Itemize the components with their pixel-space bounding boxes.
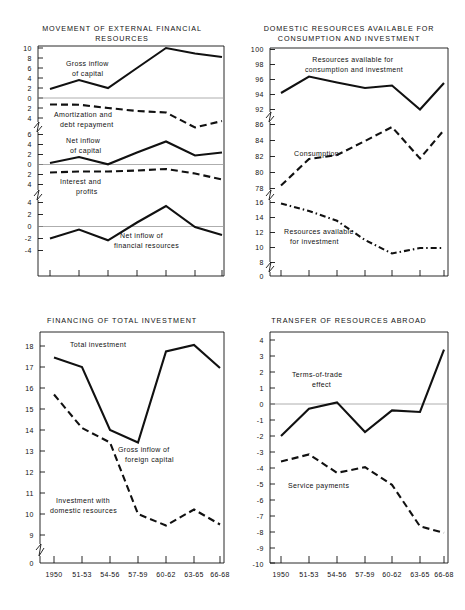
p4-tick-3: 1 <box>260 385 264 392</box>
p3-tick-6: 12 <box>25 469 34 476</box>
p4-tick-5: -1 <box>257 417 264 424</box>
label-consumption: Consumption <box>294 150 339 158</box>
p1-a-tick-7: 4 <box>28 115 32 122</box>
panel2-segment-c-ticks: 16 14 12 10 8 <box>255 199 275 266</box>
p1-b-tick-0: 6 <box>28 131 32 138</box>
p3-tick-2: 16 <box>25 385 34 392</box>
p4-tick-6: -2 <box>257 433 264 440</box>
panel3-chart: 18 17 16 15 14 13 12 11 10 9 0 Total inv… <box>8 316 236 602</box>
label-gross-inflow-foreign-capital: Gross inflow of foreign capital <box>118 446 174 464</box>
p3-xlabel-6: 66-68 <box>210 571 229 578</box>
p3-tick-1: 17 <box>25 364 34 371</box>
p4-tick-10: -6 <box>257 497 264 504</box>
p3-tick-3: 15 <box>25 406 34 413</box>
label-net-inflow-capital: Net inflow of capital <box>66 137 103 155</box>
p3-xlabel-1: 51-53 <box>72 571 91 578</box>
p3-xlabel-2: 54-56 <box>100 571 119 578</box>
panel4-title: TRANSFER OF RESOURCES ABROAD <box>236 316 462 326</box>
p1-c-tick-1: 2 <box>28 211 32 218</box>
p1-c-tick-3: -2 <box>25 235 32 242</box>
panel-transfer-of-resources-abroad: TRANSFER OF RESOURCES ABROAD 4 3 2 1 0 -… <box>236 316 462 602</box>
p4-tick-4: 0 <box>260 401 264 408</box>
p4-tick-2: 2 <box>260 369 264 376</box>
panel4-x-ticks <box>281 556 444 563</box>
panel3-title: FINANCING OF TOTAL INVESTMENT <box>8 316 236 326</box>
p2-c-tick-2: 12 <box>255 229 264 236</box>
series-service-payments <box>281 454 444 532</box>
p3-tick-0: 18 <box>25 343 34 350</box>
p4-tick-12: -8 <box>257 529 264 536</box>
p1-c-tick-0: 4 <box>28 199 32 206</box>
series-gross-inflow-of-capital <box>50 48 222 89</box>
p2-a-tick-3: 94 <box>255 91 264 98</box>
p4-tick-14: -10 <box>252 561 264 568</box>
panel3-x-labels: 1950 51-53 54-56 57-59 60-62 63-65 66-68 <box>46 571 230 578</box>
label-amortization: Amortization and debt repayment <box>54 111 114 129</box>
panel1-x-ticks <box>50 270 222 276</box>
p4-tick-7: -3 <box>257 449 264 456</box>
p4-xlabel-5: 63-65 <box>410 571 429 578</box>
series-terms-of-trade-effect <box>281 350 444 436</box>
series-resources-available-for-consumption-and-investment <box>281 77 444 110</box>
p3-xlabel-3: 57-59 <box>128 571 147 578</box>
p1-a-tick-2: 6 <box>28 65 32 72</box>
label-total-investment: Total investment <box>70 341 126 348</box>
p1-b-tick-5: 4 <box>28 181 32 188</box>
p2-a-tick-4: 92 <box>255 106 264 113</box>
p4-tick-0: 4 <box>260 337 264 344</box>
p1-b-tick-4: 2 <box>28 171 32 178</box>
p4-xlabel-4: 60-62 <box>382 571 401 578</box>
series-total-investment <box>54 345 220 443</box>
panel1-subaxis-b-ticks: 6 4 2 0 2 4 <box>28 131 224 188</box>
p3-xlabel-0: 1950 <box>46 571 63 578</box>
label-resources-investment: Resources available for investment <box>284 228 356 245</box>
panel1-title: MOVEMENT OF EXTERNAL FINANCIAL RESOURCES <box>8 24 236 44</box>
label-resources-available: Resources available for consumption and … <box>305 56 403 74</box>
p4-xlabel-3: 57-59 <box>355 571 374 578</box>
p1-c-tick-4: -4 <box>25 247 32 254</box>
p4-xlabel-1: 51-53 <box>299 571 318 578</box>
p4-tick-1: 3 <box>260 353 264 360</box>
p2-b-tick-3: 80 <box>255 169 264 176</box>
p1-a-tick-6: 2 <box>28 105 32 112</box>
p1-a-tick-1: 8 <box>28 55 32 62</box>
p3-tick-7: 11 <box>26 490 34 497</box>
p2-c-tick-4: 8 <box>260 259 264 266</box>
panel4-x-labels: 1950 51-53 54-56 57-59 60-62 63-65 66-68 <box>273 571 454 578</box>
panel-movement-external-financial-resources: MOVEMENT OF EXTERNAL FINANCIAL RESOURCES… <box>8 24 236 294</box>
p3-xlabel-4: 60-62 <box>156 571 175 578</box>
panel4-frame <box>270 332 448 563</box>
p2-d-tick-0: 0 <box>260 273 264 280</box>
p2-c-tick-1: 14 <box>255 214 264 221</box>
label-gross-inflow: Gross inflow of capital <box>66 60 111 78</box>
panel2-title: DOMESTIC RESOURCES AVAILABLE FOR CONSUMP… <box>236 24 462 44</box>
panel4-chart: 4 3 2 1 0 -1 -2 -3 -4 -5 -6 -7 -8 -9 -10 <box>236 316 462 602</box>
p3-tick-5: 13 <box>25 448 34 455</box>
p3-tick-9: 9 <box>30 532 34 539</box>
panel3-y-ticks: 18 17 16 15 14 13 12 11 10 9 0 <box>25 343 34 567</box>
p2-b-tick-1: 84 <box>255 137 264 144</box>
p3-tick-8: 10 <box>25 511 34 518</box>
panel3-x-ticks <box>54 556 220 563</box>
label-interest-profits: Interest and profits <box>60 178 103 196</box>
p4-tick-11: -7 <box>257 513 264 520</box>
p1-a-tick-4: 2 <box>28 85 32 92</box>
p4-tick-13: -9 <box>257 545 264 552</box>
p3-tick-10: 0 <box>30 560 34 567</box>
panel-domestic-resources: DOMESTIC RESOURCES AVAILABLE FOR CONSUMP… <box>236 24 462 294</box>
label-investment-domestic: Investment with domestic resources <box>50 497 117 514</box>
p4-tick-9: -5 <box>257 481 264 488</box>
p4-xlabel-0: 1950 <box>273 571 290 578</box>
panel1-chart: 10 8 6 4 2 0 2 4 Gross inflow of capital <box>8 24 236 294</box>
p2-b-tick-0: 86 <box>255 121 264 128</box>
label-net-inflow-financial: Net inflow of financial resources <box>114 232 179 249</box>
p1-a-tick-0: 10 <box>23 45 32 52</box>
p4-xlabel-2: 54-56 <box>327 571 346 578</box>
p4-xlabel-6: 66-68 <box>434 571 453 578</box>
p2-c-tick-3: 10 <box>255 244 264 251</box>
p2-a-tick-2: 96 <box>255 76 264 83</box>
panel2-segment-a-ticks: 100 98 96 94 92 <box>251 46 275 113</box>
figure-sheet: MOVEMENT OF EXTERNAL FINANCIAL RESOURCES… <box>0 0 465 610</box>
label-terms-of-trade: Terms-of-trade effect <box>292 371 345 388</box>
p4-tick-8: -4 <box>257 465 264 472</box>
